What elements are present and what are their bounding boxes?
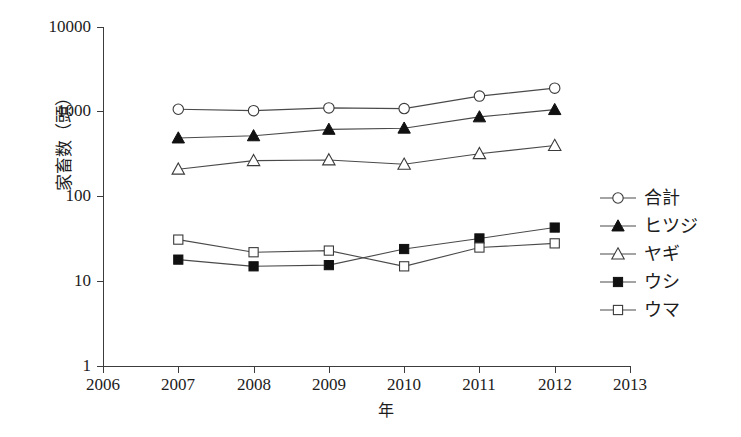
y-tick-label: 1000: [0, 102, 91, 119]
y-tick-label-text: 100: [0, 187, 91, 204]
data-point-marker: [475, 234, 484, 243]
y-tick-label-text: 10: [0, 272, 91, 289]
x-tick-mark: [404, 367, 405, 373]
legend: 合計ヒツジヤギウシウマ: [598, 184, 738, 324]
legend-item-label: ヤギ: [644, 244, 680, 264]
series-line: [178, 228, 554, 267]
series-line: [178, 88, 554, 111]
data-point-marker: [550, 83, 560, 93]
y-tick-label: 10000: [0, 18, 91, 35]
data-point-marker: [400, 244, 409, 253]
series-3: [174, 223, 560, 271]
data-point-marker: [172, 132, 184, 143]
series-line: [178, 145, 554, 169]
legend-item-label: ウシ: [644, 272, 680, 292]
data-point-marker: [550, 223, 559, 232]
y-tick-mark: [97, 27, 103, 28]
data-point-marker: [173, 104, 183, 114]
data-point-marker: [550, 239, 559, 248]
legend-marker-icon: [598, 244, 638, 264]
data-point-marker: [247, 154, 259, 165]
legend-item-1[interactable]: ヒツジ: [598, 212, 738, 240]
data-point-marker: [174, 255, 183, 264]
legend-marker-icon: [598, 272, 638, 292]
legend-item-2[interactable]: ヤギ: [598, 240, 738, 268]
data-point-marker: [400, 262, 409, 271]
x-tick-label: 2009: [294, 376, 364, 394]
series-4: [174, 235, 560, 271]
data-point-marker: [549, 103, 561, 114]
data-point-marker: [172, 163, 184, 174]
x-tick-label: 2013: [595, 376, 665, 394]
y-axis-line: [103, 27, 104, 367]
legend-item-0[interactable]: 合計: [598, 184, 738, 212]
data-point-marker: [474, 91, 484, 101]
legend-item-label: 合計: [644, 188, 680, 208]
legend-marker-icon: [598, 188, 638, 208]
x-tick-mark: [254, 367, 255, 373]
x-tick-mark: [178, 367, 179, 373]
data-point-marker: [399, 103, 409, 113]
legend-marker-icon: [598, 300, 638, 320]
y-axis-title: 家畜数（頭）: [54, 70, 74, 210]
y-tick-mark: [97, 111, 103, 112]
series-2: [172, 139, 561, 174]
data-point-marker: [473, 147, 485, 158]
data-point-marker: [324, 103, 334, 113]
y-tick-label-text: 10000: [0, 18, 91, 35]
x-tick-mark: [555, 367, 556, 373]
series-line: [178, 110, 554, 138]
x-tick-label: 2011: [444, 376, 514, 394]
y-tick-label-text: 1: [0, 357, 91, 374]
x-tick-label: 2012: [520, 376, 590, 394]
data-point-marker: [249, 262, 258, 271]
x-axis-title: 年: [0, 397, 741, 421]
x-tick-label: 2007: [143, 376, 213, 394]
y-tick-label: 1: [0, 357, 91, 374]
y-tick-mark: [97, 281, 103, 282]
series-0: [173, 83, 560, 116]
x-tick-mark: [479, 367, 480, 373]
legend-item-3[interactable]: ウシ: [598, 268, 738, 296]
data-point-marker: [247, 130, 259, 141]
data-point-marker: [324, 246, 333, 255]
data-point-marker: [248, 105, 258, 115]
x-tick-mark: [103, 367, 104, 373]
y-tick-mark: [97, 196, 103, 197]
x-axis-line: [103, 366, 631, 367]
data-point-marker: [549, 139, 561, 150]
data-point-marker: [323, 154, 335, 165]
data-point-marker: [475, 243, 484, 252]
legend-item-4[interactable]: ウマ: [598, 296, 738, 324]
legend-marker-icon: [598, 216, 638, 236]
legend-item-label: ウマ: [644, 300, 680, 320]
series-line: [178, 240, 554, 267]
data-point-marker: [324, 261, 333, 270]
data-point-marker: [323, 123, 335, 134]
x-tick-label: 2010: [369, 376, 439, 394]
x-tick-mark: [630, 367, 631, 373]
x-tick-label: 2006: [68, 376, 138, 394]
y-tick-label: 10: [0, 272, 91, 289]
data-point-marker: [174, 235, 183, 244]
data-point-marker: [398, 158, 410, 169]
series-1: [172, 103, 561, 143]
data-point-marker: [473, 111, 485, 122]
legend-item-label: ヒツジ: [644, 216, 698, 236]
x-tick-label: 2008: [219, 376, 289, 394]
line-chart: 100001000100101 200620072008200920102011…: [0, 0, 741, 437]
y-tick-label-text: 1000: [0, 102, 91, 119]
x-tick-mark: [329, 367, 330, 373]
y-tick-label: 100: [0, 187, 91, 204]
data-point-marker: [249, 248, 258, 257]
data-point-marker: [398, 122, 410, 133]
